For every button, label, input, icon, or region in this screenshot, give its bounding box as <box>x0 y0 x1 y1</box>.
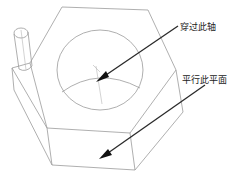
plane-arrowhead <box>99 149 112 159</box>
pin-top-ellipse <box>14 28 28 38</box>
pin-axis-line <box>21 30 26 70</box>
hex-side-edge <box>52 165 135 170</box>
hex-side-edge <box>130 133 135 170</box>
hex-side-edge <box>12 68 47 128</box>
pin-side-left <box>14 34 19 69</box>
hex-side-edge <box>12 63 30 68</box>
hole-top-circle <box>57 30 143 110</box>
hole-axis-line <box>96 66 102 104</box>
pin-side-right <box>28 32 32 66</box>
plane-annotation: 平行此平面 <box>182 73 227 86</box>
hex-side-edge <box>135 112 183 170</box>
plane-leader-line <box>108 85 205 153</box>
hex-top-face-edges <box>30 7 176 133</box>
axis-annotation: 穿过此轴 <box>180 20 216 33</box>
